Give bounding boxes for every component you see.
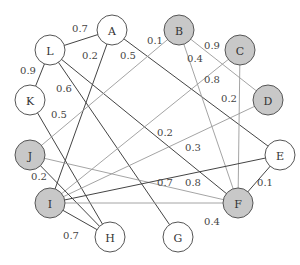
edge-weight-label: 0.2 xyxy=(157,127,173,138)
node-label: A xyxy=(107,25,117,38)
node-label: K xyxy=(26,95,35,108)
edge-C-F xyxy=(238,50,240,203)
node-C: C xyxy=(225,35,255,65)
edge-weight-label: 0.8 xyxy=(185,177,201,188)
edge-weight-label: 0.7 xyxy=(157,177,173,188)
node-label: B xyxy=(175,25,183,38)
edge-weight-label: 0.6 xyxy=(56,83,72,94)
edge-weight-label: 0.1 xyxy=(147,35,163,46)
node-J: J xyxy=(15,140,45,170)
edge-weight-label: 0.7 xyxy=(63,230,79,241)
edge-weight-label: 0.7 xyxy=(72,23,88,34)
edge-weight-label: 0.5 xyxy=(120,50,136,61)
edge-weight-label: 0.2 xyxy=(31,171,47,182)
node-label: G xyxy=(174,232,183,245)
node-label: C xyxy=(236,45,244,58)
edge-weight-label: 0.9 xyxy=(204,40,220,51)
edge-weight-label: 0.2 xyxy=(221,93,237,104)
node-label: L xyxy=(46,45,54,58)
edge-weight-label: 0.3 xyxy=(185,142,201,153)
node-K: K xyxy=(15,85,45,115)
edge-weight-label: 0.2 xyxy=(82,50,98,61)
node-D: D xyxy=(253,85,283,115)
edge-L-G xyxy=(50,50,178,237)
node-A: A xyxy=(97,15,127,45)
graph-canvas: 0.70.20.50.90.60.20.50.10.40.90.80.20.30… xyxy=(0,0,300,265)
node-label: I xyxy=(48,198,52,211)
node-I: I xyxy=(35,188,65,218)
edge-weight-label: 0.4 xyxy=(187,53,203,64)
node-label: F xyxy=(234,198,242,211)
node-B: B xyxy=(164,15,194,45)
edge-weight-label: 0.4 xyxy=(204,216,220,227)
edge-weight-label: 0.1 xyxy=(257,177,273,188)
edge-weight-label: 0.5 xyxy=(51,109,67,120)
edge-weight-label: 0.9 xyxy=(20,65,36,76)
node-F: F xyxy=(223,188,253,218)
node-label: D xyxy=(264,95,273,108)
node-L: L xyxy=(35,35,65,65)
node-label: E xyxy=(276,150,284,163)
node-H: H xyxy=(95,222,125,252)
node-label: J xyxy=(27,150,32,163)
node-E: E xyxy=(265,140,295,170)
node-G: G xyxy=(163,222,193,252)
node-label: H xyxy=(105,232,115,245)
edge-weight-label: 0.8 xyxy=(204,74,220,85)
